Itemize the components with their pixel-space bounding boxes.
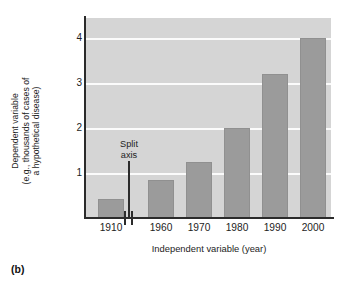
- y-tick-label-4: 4: [66, 33, 82, 43]
- x-tick-label-1910: 1910: [93, 221, 129, 234]
- y-axis-title-line-1: Dependent variable: [10, 36, 21, 226]
- y-tick-label-2: 2: [66, 123, 82, 133]
- y-axis-title-line-3: a hypothetical disease): [31, 36, 42, 226]
- x-tick-label-1980: 1980: [219, 221, 255, 234]
- figure-panel-b: Dependent variable (e.g., thousands of c…: [0, 0, 341, 282]
- x-tick-label-1960: 1960: [143, 221, 179, 234]
- y-axis-line: [84, 16, 86, 219]
- y-tick-label-3: 3: [66, 78, 82, 88]
- bar-1990: [262, 74, 288, 218]
- x-tick-label-1970: 1970: [181, 221, 217, 234]
- y-tick-label-1: 1: [66, 168, 82, 178]
- split-axis-annotation-line-2: axis: [106, 150, 152, 161]
- y-axis-tick-labels: 1234: [62, 18, 82, 218]
- x-axis-title: Independent variable (year): [86, 243, 332, 254]
- gridline-y-4: [86, 38, 331, 40]
- bar-1910: [98, 199, 124, 218]
- split-axis-leader-line: [128, 161, 130, 218]
- plot-area: [86, 18, 331, 218]
- bar-1980: [224, 128, 250, 218]
- x-tick-label-2000: 2000: [295, 221, 331, 234]
- bar-1960: [148, 180, 174, 218]
- gridline-y-3: [86, 83, 331, 85]
- split-axis-annotation-line-1: Split: [106, 139, 152, 150]
- y-axis-title-line-2: (e.g., thousands of cases of: [21, 36, 32, 226]
- x-axis-tick-labels: 191019601970198019902000: [84, 221, 336, 237]
- gridline-y-2: [86, 128, 331, 130]
- y-axis-title: Dependent variable (e.g., thousands of c…: [10, 36, 56, 226]
- bar-2000: [300, 38, 326, 218]
- x-tick-label-1990: 1990: [257, 221, 293, 234]
- bar-1970: [186, 162, 212, 218]
- split-axis-annotation: Split axis: [106, 139, 152, 161]
- panel-label: (b): [11, 263, 24, 275]
- x-axis-line: [84, 217, 334, 219]
